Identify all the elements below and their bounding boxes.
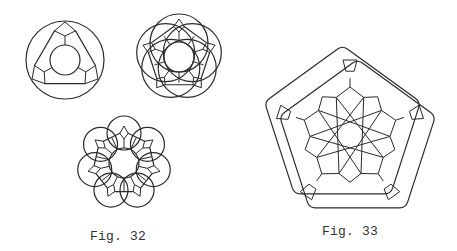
corner-cell	[384, 184, 400, 200]
penta-ring-drawing	[137, 14, 222, 97]
corner-cap	[145, 140, 153, 148]
spoke	[114, 177, 118, 185]
hub-link	[304, 110, 318, 136]
inner-circle	[164, 42, 194, 72]
spoke	[317, 174, 322, 181]
star-line	[361, 97, 364, 173]
corner-cell	[409, 105, 423, 119]
figure-32-caption: Fig. 32	[90, 229, 146, 244]
spoke	[136, 148, 143, 154]
outer-ring-link	[305, 136, 317, 157]
corner-cell	[143, 141, 150, 148]
corner-cap	[120, 126, 128, 133]
star-line	[317, 136, 390, 157]
corner-cell	[133, 185, 141, 192]
hepta-ring-drawing	[78, 116, 170, 207]
figure-33-caption: Fig. 33	[322, 224, 378, 239]
corner-cell	[54, 31, 75, 36]
spoke	[101, 166, 110, 168]
corner-cell	[277, 105, 291, 119]
spoke	[188, 69, 194, 77]
lobe-circle	[136, 153, 170, 187]
lobe-circle	[84, 127, 118, 161]
hub-link	[336, 87, 363, 97]
star-line	[336, 97, 383, 157]
inner-circle	[50, 45, 80, 75]
spoke	[139, 166, 148, 168]
corner-cap	[95, 140, 103, 148]
spoke	[378, 174, 383, 181]
spoke	[131, 177, 135, 185]
star-line	[336, 97, 339, 173]
spoke	[44, 68, 52, 73]
polygon-edge	[148, 52, 157, 78]
hub-link	[361, 157, 383, 173]
outer-ring-link	[364, 97, 382, 111]
polygon-edge	[34, 31, 54, 66]
figure-33-drawing	[266, 47, 434, 208]
star-line	[310, 136, 383, 157]
corner-cell	[120, 133, 128, 139]
star-line	[317, 97, 364, 157]
inner-circle	[109, 148, 139, 178]
corner-cap	[54, 22, 75, 31]
spoke	[396, 117, 404, 120]
outer-ring-link	[339, 174, 361, 183]
corner-cell	[98, 141, 105, 148]
corner-cell	[94, 166, 100, 174]
outer-pentagon-front	[281, 61, 434, 208]
corner-cell	[107, 185, 115, 192]
hub-link	[317, 157, 339, 173]
pentagon-star	[266, 47, 434, 208]
hub-link	[382, 110, 396, 136]
spoke	[105, 148, 112, 154]
spoke	[296, 117, 304, 120]
corner-cap	[88, 166, 96, 174]
spoke	[164, 69, 170, 77]
outer-ring-link	[383, 136, 395, 157]
lobe-circle	[78, 153, 112, 187]
spoke	[78, 68, 86, 73]
corner-cap	[152, 166, 160, 174]
figure-32-drawings	[26, 14, 221, 207]
polygon-edge	[76, 31, 96, 66]
lobe-circle	[130, 127, 164, 161]
polygon-edge	[201, 52, 210, 78]
corner-cell	[147, 166, 153, 174]
corner-cap	[107, 188, 115, 196]
tri-ring-drawing	[26, 21, 104, 99]
figures-canvas	[0, 0, 457, 251]
outer-ring-link	[319, 97, 337, 111]
corner-cap	[133, 188, 141, 196]
